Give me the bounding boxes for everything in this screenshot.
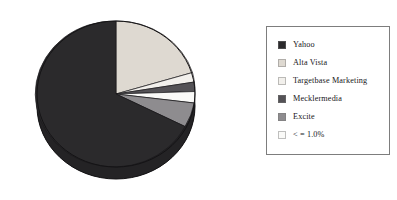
pie-chart — [28, 6, 208, 196]
legend-swatch-under-one-percent — [278, 131, 286, 139]
legend-label-alta-vista: Alta Vista — [293, 59, 327, 67]
legend-label-excite: Excite — [293, 113, 315, 121]
legend-swatch-excite — [278, 113, 286, 121]
legend-swatch-yahoo — [278, 41, 286, 49]
legend-swatch-alta-vista — [278, 59, 286, 67]
legend-item-under-one-percent: < = 1.0% — [278, 126, 389, 144]
legend-label-mecklermedia: Mecklermedia — [293, 95, 342, 103]
legend-item-excite: Excite — [278, 108, 389, 126]
pie-chart-svg — [28, 6, 208, 196]
legend-label-yahoo: Yahoo — [293, 41, 315, 49]
legend-label-under-one-percent: < = 1.0% — [293, 131, 325, 139]
legend-item-alta-vista: Alta Vista — [278, 54, 389, 72]
chart-screenshot: Yahoo Alta Vista Targetbase Marketing Me… — [0, 0, 397, 200]
legend-label-targetbase-marketing: Targetbase Marketing — [293, 77, 367, 85]
legend-swatch-targetbase-marketing — [278, 77, 286, 85]
legend-swatch-mecklermedia — [278, 95, 286, 103]
legend-item-yahoo: Yahoo — [278, 36, 389, 54]
legend-item-mecklermedia: Mecklermedia — [278, 90, 389, 108]
legend-item-targetbase-marketing: Targetbase Marketing — [278, 72, 389, 90]
chart-legend: Yahoo Alta Vista Targetbase Marketing Me… — [266, 26, 390, 155]
